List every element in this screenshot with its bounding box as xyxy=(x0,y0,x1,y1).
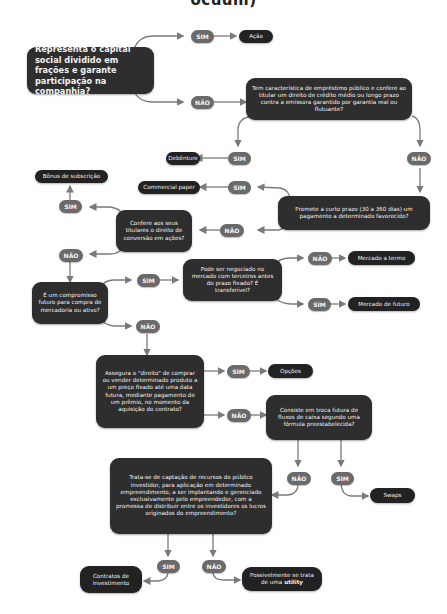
question-troca-fluxos: Consiste em troca futura de fluxos de ca… xyxy=(266,395,372,440)
result-bonus-subscricao: Bônus de subscrição xyxy=(35,170,108,183)
pill-sim-contratos: SIM xyxy=(157,560,180,573)
question-text: Trata-se de captação de recursos do públ… xyxy=(116,474,266,517)
pill-sim-q5: SIM xyxy=(137,274,160,287)
pill-sim-debenture: SIM xyxy=(228,152,251,165)
pill-nao-termo: NÃO xyxy=(308,252,332,265)
pill-sim-swaps: SIM xyxy=(331,472,354,485)
result-debenture: Debênture xyxy=(166,152,200,165)
question-text: Confere aos seus titulares o direito de … xyxy=(122,220,186,242)
question-text: Representa o capital social dividido em … xyxy=(35,44,146,97)
question-emprestimo-publico: Tem característica de empréstimo público… xyxy=(246,78,412,120)
result-opcoes: Opções xyxy=(268,364,313,378)
question-direito-opcao: Assegura o "direito" de comprar ou vende… xyxy=(96,355,204,428)
question-text: Pode ser negociado no mercado com tercei… xyxy=(189,266,276,295)
pill-nao-q1: NÃO xyxy=(191,96,214,109)
pill-nao-q8: NÃO xyxy=(287,472,311,485)
question-captacao-recursos: Trata-se de captação de recursos do públ… xyxy=(110,458,272,534)
question-text: Assegura o "direito" de comprar ou vende… xyxy=(102,370,198,413)
question-compromisso-futuro: É um compromisso futuro para compra de m… xyxy=(32,282,108,324)
result-mercado-futuro: Mercado de futuro xyxy=(348,297,420,311)
pill-nao-q3: NÃO xyxy=(220,224,244,237)
question-curto-prazo: Promete a curto prazo (30 a 360 dias) um… xyxy=(278,196,430,230)
question-capital-social: Representa o capital social dividido em … xyxy=(27,47,154,94)
pill-nao-utility: NÃO xyxy=(202,560,226,573)
pill-sim-bonus: SIM xyxy=(59,200,82,213)
utility-prefix: Possivelmente se trata de uma xyxy=(250,572,314,585)
result-acao: Ação xyxy=(239,30,273,43)
question-text: Tem característica de empréstimo público… xyxy=(252,85,406,114)
question-text: Promete a curto prazo (30 a 360 dias) um… xyxy=(284,206,424,220)
question-conversao-acoes: Confere aos seus titulares o direito de … xyxy=(116,210,192,252)
result-utility: Possivelmente se trata de umautility xyxy=(242,567,322,591)
utility-text: Possivelmente se trata de umautility xyxy=(247,572,317,586)
pill-sim-commercial: SIM xyxy=(228,181,251,194)
utility-bold: utility xyxy=(284,579,303,585)
question-text: É um compromisso futuro para compra de m… xyxy=(38,292,102,314)
question-negociavel: Pode ser negociado no mercado com tercei… xyxy=(183,259,282,301)
pill-sim-opcoes: SIM xyxy=(227,365,250,378)
question-text: Consiste em troca futura de fluxos de ca… xyxy=(272,407,366,429)
result-swaps: Swaps xyxy=(370,488,415,503)
pill-sim-acao: SIM xyxy=(191,30,214,43)
result-contratos-investimento: Contratos de investimento xyxy=(80,566,142,593)
pill-nao-q7: NÃO xyxy=(227,409,251,422)
pill-nao-q4: NÃO xyxy=(59,249,83,262)
result-commercial-paper: Commercial paper xyxy=(138,181,200,194)
pill-sim-futuro: SIM xyxy=(308,298,331,311)
result-mercado-termo: Mercado a termo xyxy=(348,251,415,265)
pill-nao-q5: NÃO xyxy=(136,320,160,333)
pill-nao-q2: NÃO xyxy=(407,152,431,165)
